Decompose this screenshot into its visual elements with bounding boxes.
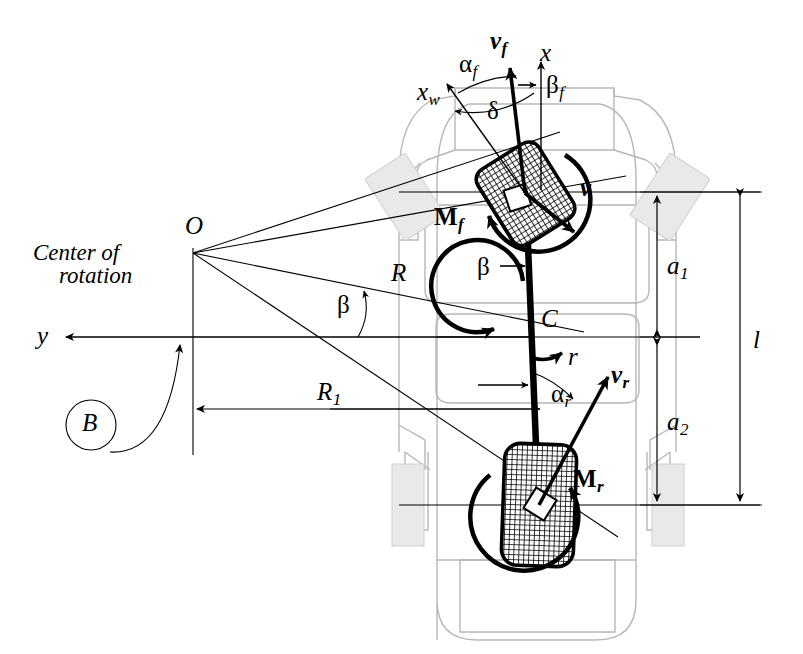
label-radius-R: R [391, 260, 406, 285]
label-moment-Mf: Mf [434, 204, 464, 233]
label-point-O: O [185, 213, 203, 238]
label-velocity-vr: vr [611, 362, 629, 391]
label-point-C: C [541, 306, 558, 331]
figure-canvas: Center of rotation O C B y x xw R R1 l a… [0, 0, 803, 654]
label-wheelbase-l: l [753, 327, 760, 352]
label-moment-Mr: Mr [573, 466, 604, 495]
yaw-rate-arrow [533, 353, 562, 359]
diagram-svg [0, 0, 803, 654]
label-velocity-vf: vf [490, 28, 507, 57]
label-sideslip-beta-f: βf [546, 72, 564, 101]
label-sideslip-beta-center: β [477, 254, 490, 279]
label-yaw-rate-r: r [568, 344, 578, 369]
label-velocity-v: v [580, 175, 591, 200]
label-point-B: B [82, 410, 97, 435]
label-sideslip-beta: β [337, 292, 350, 317]
label-axis-xw: xw [417, 79, 440, 108]
label-center-of-rotation: Center of rotation [33, 241, 132, 287]
dimension-extension-lines [640, 192, 762, 505]
label-distance-a2: a2 [667, 409, 689, 438]
label-axis-x: x [540, 40, 551, 65]
label-slip-angle-alpha-r: αr [551, 381, 571, 410]
label-distance-a1: a1 [667, 253, 689, 282]
beta-angle-arc [358, 291, 366, 337]
label-axis-y: y [37, 323, 48, 348]
label-slip-angle-alpha-f: αf [459, 51, 477, 80]
label-steer-angle-delta: δ [487, 98, 499, 123]
label-radius-R1: R1 [317, 379, 341, 408]
label-B-leader [66, 345, 180, 452]
reference-lines [399, 192, 760, 505]
